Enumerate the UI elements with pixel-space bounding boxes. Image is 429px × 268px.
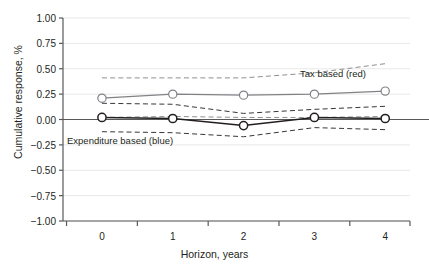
data-point-marker [169,90,177,98]
annotation-tax-based: Tax based (red) [300,68,366,79]
plot-area [0,0,429,268]
data-point-marker [98,113,106,121]
chart-figure: Cumulative response, % 1.000.750.500.250… [0,0,429,268]
data-point-marker [98,94,106,102]
data-point-marker [381,114,389,122]
data-point-marker [239,91,247,99]
data-point-marker [310,90,318,98]
data-point-marker [169,114,177,122]
data-point-marker [239,121,247,129]
data-point-marker [381,87,389,95]
annotation-expenditure-based: Expenditure based (blue) [67,135,173,146]
data-point-marker [310,113,318,121]
confidence-band-upper-series-1 [102,103,385,113]
